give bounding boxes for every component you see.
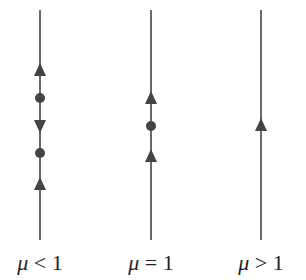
relation-text: = 1 — [145, 250, 174, 275]
phase-line-0 — [34, 10, 46, 240]
mu-symbol: μ — [238, 250, 249, 275]
arrow-up-icon — [34, 177, 46, 190]
arrow-up-icon — [145, 91, 157, 104]
bifurcation-diagram: μ < 1 μ = 1 μ > 1 — [0, 0, 306, 280]
phase-lines-canvas — [0, 0, 306, 280]
arrow-down-icon — [34, 120, 46, 133]
phase-line-2 — [255, 10, 267, 240]
fixed-point-dot — [35, 93, 45, 103]
label-mu-greater-than-1: μ > 1 — [238, 250, 283, 276]
arrow-up-icon — [145, 149, 157, 162]
mu-symbol: μ — [128, 250, 139, 275]
fixed-point-dot — [146, 121, 156, 131]
label-mu-less-than-1: μ < 1 — [17, 250, 62, 276]
fixed-point-dot — [35, 148, 45, 158]
label-mu-equals-1: μ = 1 — [128, 250, 173, 276]
mu-symbol: μ — [17, 250, 28, 275]
arrow-up-icon — [255, 118, 267, 131]
arrow-up-icon — [34, 63, 46, 76]
phase-line-1 — [145, 10, 157, 240]
relation-text: < 1 — [34, 250, 63, 275]
relation-text: > 1 — [255, 250, 284, 275]
